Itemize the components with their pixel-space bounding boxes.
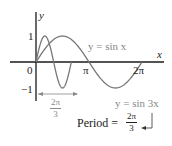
tick-label-neg-1: −1 <box>21 84 33 95</box>
tick-label-1: 1 <box>28 31 34 42</box>
x-axis-label: x <box>157 49 162 60</box>
arrowhead-right-icon <box>73 92 78 96</box>
fraction-denominator: 3 <box>129 123 134 133</box>
period-text: Period = <box>77 117 118 129</box>
tick-label-pi: π <box>83 65 89 76</box>
fraction-numerator: 2π <box>126 112 137 123</box>
period-fraction: 2π 3 <box>126 112 137 133</box>
arrowhead-left-icon <box>141 126 146 130</box>
sin-3x-label: y = sin 3x <box>115 98 159 109</box>
y-axis-label: y <box>39 10 44 21</box>
arrowhead-left-icon <box>38 92 43 96</box>
tick-label-2pi: 2π <box>133 65 144 76</box>
fraction-numerator: 2π <box>50 98 61 109</box>
fraction-denominator: 3 <box>53 109 58 119</box>
tick-label-origin: 0 <box>27 65 33 76</box>
sin-x-label: y = sin x <box>88 41 126 52</box>
callout-arrow <box>145 113 152 128</box>
period-span-fraction: 2π 3 <box>50 98 61 119</box>
